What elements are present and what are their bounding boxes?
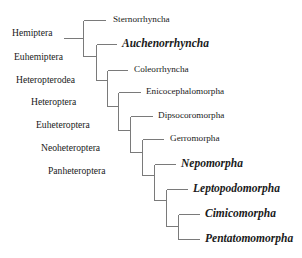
rank-label-neoheteroptera: Neoheteroptera (41, 143, 100, 153)
taxon-dipsocoromorpha: Dipsocoromorpha (158, 111, 224, 120)
rank-label-heteropterodea: Heteropterodea (16, 75, 75, 85)
rank-label-euhemiptera: Euhemiptera (14, 52, 63, 62)
taxon-gerromorpha: Gerromorpha (170, 134, 220, 143)
taxon-cimicomorpha: Cimicomorpha (205, 208, 276, 220)
rank-label-euheteroptera: Euheteroptera (36, 120, 90, 130)
rank-label-hemiptera: Hemiptera (12, 28, 53, 38)
rank-label-panheteroptera: Panheteroptera (48, 166, 106, 176)
taxon-enicocephalomorpha: Enicocephalomorpha (146, 87, 224, 96)
taxon-sternorrhyncha: Sternorrhyncha (113, 15, 170, 24)
taxon-leptopodomorpha: Leptopodomorpha (193, 183, 280, 195)
phylogenetic-tree: Hemiptera Euhemiptera Heteropterodea Het… (0, 0, 302, 258)
rank-label-heteroptera: Heteroptera (31, 97, 76, 107)
taxon-auchenorrhyncha: Auchenorrhyncha (122, 38, 209, 50)
taxon-nepomorpha: Nepomorpha (181, 158, 243, 170)
taxon-coleorrhyncha: Coleorrhyncha (134, 65, 189, 74)
taxon-pentatomomorpha: Pentatomomorpha (205, 233, 293, 245)
